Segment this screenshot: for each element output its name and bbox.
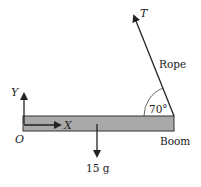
angle-label: 70° [149, 103, 168, 115]
boom [23, 116, 174, 131]
boom-diagram: Y X O T Rope 70° Boom 15 g [0, 0, 201, 187]
x-axis-label: X [63, 119, 73, 132]
boom-label: Boom [160, 135, 190, 147]
weight-label: 15 g [86, 162, 110, 174]
tension-label: T [140, 7, 149, 20]
origin-label: O [15, 133, 24, 146]
y-axis-label: Y [11, 86, 20, 99]
rope-label: Rope [159, 58, 186, 70]
